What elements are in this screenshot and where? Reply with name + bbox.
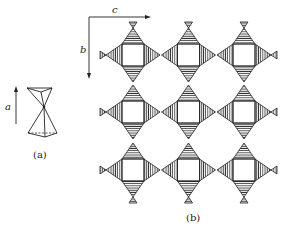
tetrahedron-bottom xyxy=(178,66,200,82)
square-cavity xyxy=(233,44,255,66)
square-cavity xyxy=(233,101,255,123)
a-axis-label: a xyxy=(5,101,11,112)
tetrahedron-top xyxy=(122,143,144,159)
square-cavity xyxy=(122,101,144,123)
tetrahedron-right xyxy=(200,159,216,181)
terminal-tetrahedron xyxy=(271,51,277,59)
end-cap-triangle xyxy=(129,22,137,28)
square-cavity xyxy=(233,159,255,181)
end-cap-triangle xyxy=(100,108,106,116)
end-cap-triangle xyxy=(240,22,248,28)
tetrahedron-top xyxy=(233,143,255,159)
terminal-tetrahedron xyxy=(271,108,277,116)
tetrahedron-left xyxy=(106,44,122,66)
tetrahedral-framework xyxy=(100,22,277,203)
terminal-tetrahedron xyxy=(240,22,248,28)
c-axis-arrow xyxy=(89,15,151,19)
tetrahedral-unit xyxy=(106,143,160,197)
terminal-tetrahedron xyxy=(100,108,106,116)
terminal-tetrahedron xyxy=(271,166,277,174)
terminal-tetrahedron xyxy=(100,51,106,59)
tetrahedron-left xyxy=(162,44,178,66)
end-cap-triangle xyxy=(100,166,106,174)
tetrahedron-top xyxy=(122,85,144,101)
tetrahedron-right xyxy=(200,44,216,66)
tetrahedral-unit xyxy=(162,143,216,197)
square-cavity xyxy=(178,44,200,66)
tetrahedron-bottom xyxy=(233,123,255,139)
tetrahedral-unit xyxy=(162,28,216,82)
terminal-tetrahedron xyxy=(129,197,137,203)
tetrahedral-unit xyxy=(217,85,271,139)
end-cap-triangle xyxy=(100,51,106,59)
terminal-tetrahedron xyxy=(185,197,193,203)
square-cavity xyxy=(122,159,144,181)
tetrahedron-bottom xyxy=(122,181,144,197)
panel-a-caption: (a) xyxy=(33,149,47,160)
tetrahedron-bottom xyxy=(233,66,255,82)
tetrahedron-left xyxy=(106,101,122,123)
tetrahedron-top xyxy=(122,28,144,44)
terminal-tetrahedron xyxy=(240,197,248,203)
square-cavity xyxy=(178,101,200,123)
tetrahedron-right xyxy=(255,101,271,123)
tetrahedron-left xyxy=(162,159,178,181)
tetrahedron-right xyxy=(144,159,160,181)
tetrahedron-right xyxy=(144,44,160,66)
tetrahedron-bottom xyxy=(122,123,144,139)
tetrahedral-unit xyxy=(162,85,216,139)
terminal-tetrahedron xyxy=(129,22,137,28)
end-cap-triangle xyxy=(271,108,277,116)
tetrahedron-left xyxy=(217,159,233,181)
end-cap-triangle xyxy=(185,22,193,28)
end-cap-triangle xyxy=(271,166,277,174)
tetrahedral-unit xyxy=(217,143,271,197)
tetrahedron-bottom xyxy=(178,123,200,139)
tetrahedron-left xyxy=(217,44,233,66)
end-cap-triangle xyxy=(271,51,277,59)
end-cap-triangle xyxy=(240,197,248,203)
tetrahedral-unit xyxy=(217,28,271,82)
panel-a: a (a) xyxy=(5,86,57,160)
crystal-structure-diagram: a (a) c b (b) xyxy=(0,0,297,243)
tetrahedron-right xyxy=(255,159,271,181)
tetrahedron-left xyxy=(217,101,233,123)
tetrahedra-pair xyxy=(27,88,57,137)
terminal-tetrahedron xyxy=(185,22,193,28)
panel-b-caption: (b) xyxy=(186,212,200,223)
tetrahedron-top xyxy=(233,28,255,44)
tetrahedron-bottom xyxy=(178,181,200,197)
terminal-tetrahedron xyxy=(100,166,106,174)
tetrahedron-right xyxy=(255,44,271,66)
tetrahedron-left xyxy=(162,101,178,123)
b-axis-arrow xyxy=(87,17,91,79)
tetrahedral-unit xyxy=(106,85,160,139)
tetrahedron-right xyxy=(200,101,216,123)
end-cap-triangle xyxy=(129,197,137,203)
tetrahedron-right xyxy=(144,101,160,123)
tetrahedron-left xyxy=(106,159,122,181)
square-cavity xyxy=(178,159,200,181)
tetrahedron-top xyxy=(178,143,200,159)
tetrahedron-top xyxy=(178,85,200,101)
a-axis-arrow xyxy=(14,86,18,124)
tetrahedron-top xyxy=(178,28,200,44)
c-axis-label: c xyxy=(112,4,118,15)
end-cap-triangle xyxy=(185,197,193,203)
tetrahedron-top xyxy=(233,85,255,101)
tetrahedron-bottom xyxy=(233,181,255,197)
tetrahedral-unit xyxy=(106,28,160,82)
tetrahedron-bottom xyxy=(122,66,144,82)
b-axis-label: b xyxy=(80,44,86,55)
square-cavity xyxy=(122,44,144,66)
